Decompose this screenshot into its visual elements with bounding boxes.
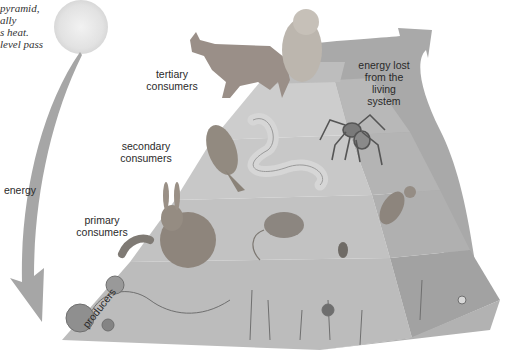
label-primary-consumers: primary consumers bbox=[62, 214, 142, 238]
caption-line: ally bbox=[0, 14, 43, 26]
label-line: energy lost bbox=[344, 59, 424, 71]
pyramid-level-producers bbox=[62, 250, 500, 350]
label-line: system bbox=[344, 95, 424, 107]
label-line: consumers bbox=[106, 152, 186, 164]
label-line: primary bbox=[62, 214, 142, 226]
label-line: living bbox=[344, 83, 424, 95]
label-line: consumers bbox=[62, 226, 142, 238]
pyramid-illustration bbox=[0, 0, 516, 351]
label-line: consumers bbox=[132, 80, 212, 92]
caption-line: level pass bbox=[0, 38, 43, 50]
label-energy-lost: energy lost from the living system bbox=[344, 59, 424, 107]
caption-fragment: pyramid, ally s heat. level pass bbox=[0, 2, 43, 50]
beetle-illustration bbox=[338, 242, 348, 258]
owl-illustration bbox=[282, 9, 322, 82]
label-line: from the bbox=[344, 71, 424, 83]
energy-pyramid-diagram: pyramid, ally s heat. level pass tertiar… bbox=[0, 0, 516, 351]
caption-line: pyramid, bbox=[0, 2, 43, 14]
label-line: tertiary bbox=[132, 68, 212, 80]
label-line: secondary bbox=[106, 140, 186, 152]
label-secondary-consumers: secondary consumers bbox=[106, 140, 186, 164]
caption-line: s heat. bbox=[0, 26, 43, 38]
label-tertiary-consumers: tertiary consumers bbox=[132, 68, 212, 92]
label-energy: energy bbox=[0, 184, 40, 196]
sun-icon bbox=[54, 0, 108, 54]
